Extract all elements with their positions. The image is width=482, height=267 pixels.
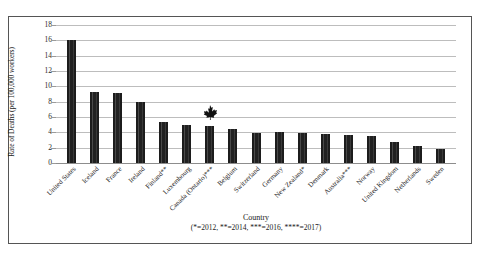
maple-leaf-icon	[202, 104, 218, 120]
y-axis-tick-label: 12	[30, 67, 52, 75]
bar-slot	[245, 25, 268, 163]
x-axis-tick-label: Iceland	[80, 165, 100, 185]
bar	[252, 133, 261, 163]
y-axis-tick-label: 4	[30, 128, 52, 136]
bar-slot	[337, 25, 360, 163]
bar	[136, 102, 145, 163]
bar	[67, 40, 76, 163]
bar-slot	[60, 25, 83, 163]
chart-figure: Rate of Deaths (per 100,000 workers) 181…	[8, 16, 472, 244]
y-axis-title: Rate of Deaths (per 100,000 workers)	[7, 41, 21, 163]
bar-slot	[175, 25, 198, 163]
x-axis-title-note: (*=2012, **=2014, ***=2016, ****=2017)	[56, 223, 456, 233]
y-axis-tick-label: 6	[30, 113, 52, 121]
x-axis-tick-label: Ireland	[127, 165, 147, 185]
y-axis-tick-label: 16	[30, 36, 52, 44]
bar-series	[56, 25, 456, 163]
y-axis-tick-label: 10	[30, 82, 52, 90]
bar-slot	[152, 25, 175, 163]
bar-slot	[129, 25, 152, 163]
plot-area: 181614121086420	[56, 25, 456, 163]
y-axis-tick-label: 8	[30, 98, 52, 106]
x-axis-title-main: Country	[243, 213, 269, 222]
bar-slot	[106, 25, 129, 163]
x-axis-tick-label: France	[104, 165, 123, 184]
y-axis-tick-label: 2	[30, 144, 52, 152]
x-axis-tick-label: Canada (Ontario)***	[168, 165, 216, 213]
x-axis-tick-label: United States	[45, 165, 77, 197]
y-axis-tick-mark	[51, 163, 56, 164]
y-axis-tick-label: 14	[30, 52, 52, 60]
bar	[159, 122, 168, 163]
bar-slot	[291, 25, 314, 163]
y-axis-tick-label: 18	[30, 21, 52, 29]
bar	[113, 93, 122, 163]
y-axis-tick-label: 0	[30, 159, 52, 167]
bar-slot	[383, 25, 406, 163]
x-axis-tick-label: Sweden	[425, 165, 446, 186]
x-axis-title: Country (*=2012, **=2014, ***=2016, ****…	[56, 213, 456, 233]
